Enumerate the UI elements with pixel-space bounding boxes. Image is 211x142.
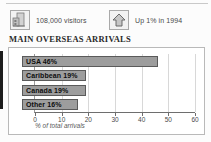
stat-visitors: 108,000 visitors xyxy=(10,9,87,31)
stat-visitors-label: 108,000 visitors xyxy=(36,17,87,24)
up-arrow-icon xyxy=(109,10,129,30)
stat-trend: Up 1% in 1994 xyxy=(109,9,182,31)
chart-bar-label: USA 46% xyxy=(23,58,57,65)
chart-gridline xyxy=(168,54,169,112)
chart-bar[interactable]: USA 46% xyxy=(22,56,158,67)
stat-trend-label: Up 1% in 1994 xyxy=(135,17,182,24)
left-edge-tab xyxy=(0,51,3,109)
buildings-icon xyxy=(10,10,30,30)
chart-bar[interactable]: Caribbean 19% xyxy=(22,70,86,81)
chart-bar[interactable]: Canada 19% xyxy=(22,85,86,96)
chart-bar[interactable]: Other 16% xyxy=(22,99,78,110)
x-axis-tick-label: 40 xyxy=(138,116,145,123)
chart-bar-label: Caribbean 19% xyxy=(23,72,78,79)
stats-row: 108,000 visitors Up 1% in 1994 xyxy=(8,9,206,31)
chart-bar-label: Canada 19% xyxy=(23,87,68,94)
x-axis-tick-label: 30 xyxy=(111,116,118,123)
x-axis-caption: % of total arrivals xyxy=(35,122,85,129)
x-axis-tick-label: 50 xyxy=(165,116,172,123)
chart-card: USA 46%Caribbean 19%Canada 19%Other 16%0… xyxy=(8,47,205,135)
x-axis-tick-label: 20 xyxy=(85,116,92,123)
infographic-panel: 108,000 visitors Up 1% in 1994 MAIN OVER… xyxy=(0,0,211,142)
chart-plot-area: USA 46%Caribbean 19%Canada 19%Other 16%0… xyxy=(34,54,195,113)
x-axis-tick-label: 60 xyxy=(191,116,198,123)
top-divider xyxy=(6,3,208,4)
chart-gridline xyxy=(195,54,196,112)
chart-bar-label: Other 16% xyxy=(23,101,62,108)
page-title: MAIN OVERSEAS ARRIVALS xyxy=(9,34,131,44)
